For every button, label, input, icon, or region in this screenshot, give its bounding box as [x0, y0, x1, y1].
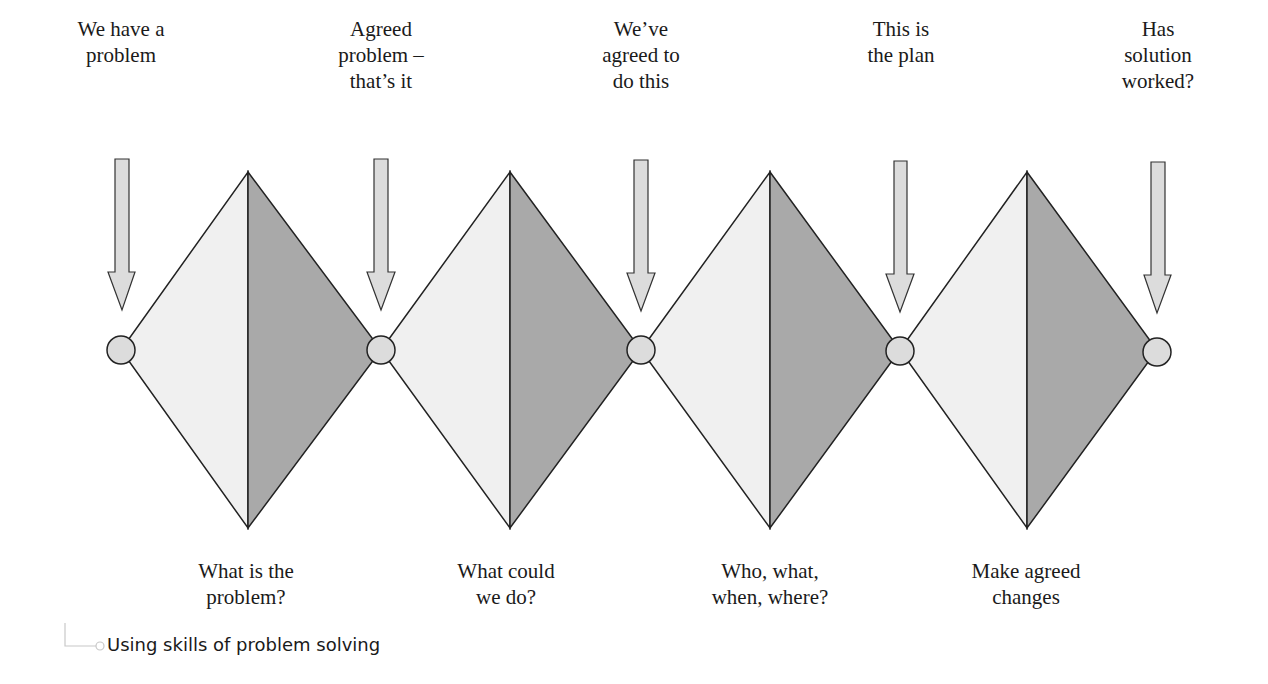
checkpoint-node: [1143, 338, 1171, 366]
down-arrow-icon: [627, 160, 655, 311]
checkpoint-node: [367, 336, 395, 364]
down-arrow-icon: [367, 159, 395, 310]
down-arrow-icon: [1144, 162, 1171, 313]
caption-connector-icon: [65, 623, 104, 650]
stage-label: What is the problem?: [198, 558, 294, 610]
checkpoint-node: [886, 337, 914, 365]
checkpoint-node: [627, 336, 655, 364]
stage-diamond-2: [381, 172, 641, 528]
stage-label: What could we do?: [457, 558, 554, 610]
checkpoint-node: [107, 336, 135, 364]
stage-diamond-1: [121, 172, 381, 528]
figure-caption: Using skills of problem solving: [107, 634, 380, 655]
down-arrow-icon: [886, 161, 914, 312]
checkpoint-label: We’ve agreed to do this: [602, 16, 680, 94]
stage-diamond-4: [900, 172, 1157, 528]
stage-diamond-3: [641, 172, 900, 528]
checkpoint-label: Has solution worked?: [1122, 16, 1194, 94]
checkpoint-label: We have a problem: [78, 16, 165, 68]
checkpoint-label: Agreed problem – that’s it: [338, 16, 424, 94]
checkpoint-label: This is the plan: [867, 16, 934, 68]
stage-label: Make agreed changes: [971, 558, 1080, 610]
down-arrow-icon: [108, 159, 135, 310]
stage-label: Who, what, when, where?: [712, 558, 829, 610]
